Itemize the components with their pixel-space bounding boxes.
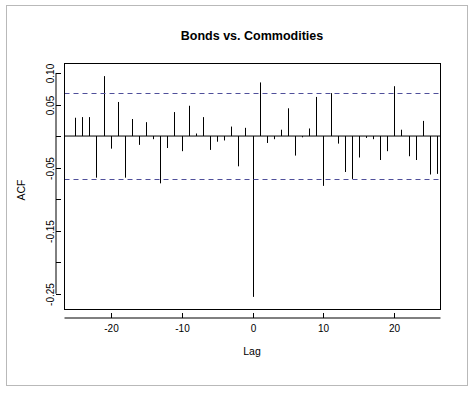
y-tick-label: -0.05 bbox=[45, 157, 56, 180]
x-axis-label: Lag bbox=[243, 345, 261, 357]
acf-bars bbox=[65, 76, 441, 297]
x-tick-label: 20 bbox=[389, 323, 401, 334]
y-tick-label: -0.15 bbox=[45, 220, 56, 243]
plot-frame bbox=[65, 64, 441, 310]
y-tick-label: 0.10 bbox=[45, 63, 56, 83]
x-tick-label: 0 bbox=[251, 323, 257, 334]
x-tick-label: -20 bbox=[104, 323, 119, 334]
figure-canvas: Bonds vs. Commodities Lag ACF 0.100.05-0… bbox=[0, 0, 475, 393]
x-tick-label: -10 bbox=[175, 323, 190, 334]
x-tick-label: 10 bbox=[318, 323, 330, 334]
y-tick-label: -0.25 bbox=[45, 283, 56, 306]
y-axis-label: ACF bbox=[15, 180, 27, 201]
acf-plot: Bonds vs. Commodities Lag ACF 0.100.05-0… bbox=[0, 0, 475, 393]
page-title: Bonds vs. Commodities bbox=[181, 29, 323, 43]
y-tick-label: 0.05 bbox=[45, 95, 56, 115]
